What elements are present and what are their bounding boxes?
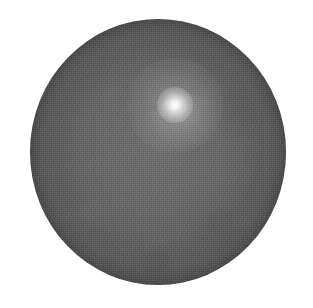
disk-mottling: [30, 19, 286, 285]
disk-grain-horizontal: [30, 19, 286, 285]
disk-grain-diagonal: [30, 19, 286, 285]
primary-disk: [30, 19, 286, 285]
disk-grain-vertical: [30, 19, 286, 285]
disk-limb-shading: [30, 19, 286, 285]
figure-canvas: [0, 0, 313, 308]
